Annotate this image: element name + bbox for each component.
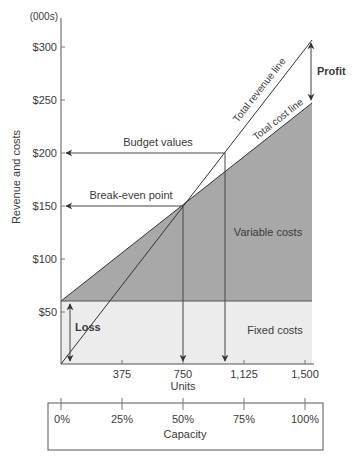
y-ticks [61, 47, 65, 312]
breakeven-label: Break-even point [89, 189, 172, 201]
x-axis-label: Units [170, 380, 196, 392]
profit-label: Profit [317, 65, 346, 77]
y-tick-200: $200 [33, 147, 57, 159]
y-tick-100: $100 [33, 253, 57, 265]
fixed-costs-label: Fixed costs [247, 324, 303, 336]
capacity-tick-0: 0% [54, 413, 70, 425]
y-tick-150: $150 [33, 200, 57, 212]
capacity-tick-50: 50% [172, 413, 194, 425]
x-tick-1500: 1,500 [291, 368, 319, 380]
x-tick-750: 750 [174, 368, 192, 380]
y-tick-50: $50 [39, 306, 57, 318]
capacity-scale-box [48, 403, 323, 450]
capacity-ticks [61, 398, 305, 410]
y-tick-250: $250 [33, 94, 57, 106]
y-axis-label: Revenue and costs [10, 129, 22, 224]
capacity-tick-100: 100% [291, 413, 319, 425]
capacity-tick-25: 25% [111, 413, 133, 425]
capacity-tick-75: 75% [233, 413, 255, 425]
x-tick-375: 375 [113, 368, 131, 380]
y-unit-label: (000s) [30, 11, 58, 22]
loss-label: Loss [75, 321, 101, 333]
x-tick-1125: 1,125 [230, 368, 258, 380]
break-even-chart: (000s) $300 $250 $200 $150 $100 $50 Reve… [0, 0, 358, 462]
capacity-label: Capacity [164, 428, 207, 440]
variable-costs-label: Variable costs [234, 226, 303, 238]
budget-values-label: Budget values [123, 136, 193, 148]
y-tick-300: $300 [33, 41, 57, 53]
